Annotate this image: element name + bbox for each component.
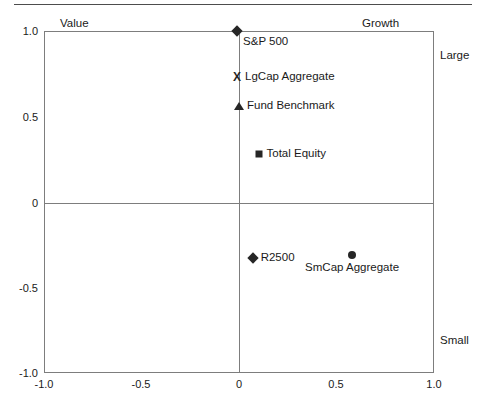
x-tick-label: 0.5 [313, 378, 359, 390]
axis-annotation-small: Small [440, 334, 469, 346]
x-tick-label: -1.0 [21, 378, 67, 390]
axis-annotation-large: Large [440, 49, 469, 61]
marker-cross-icon: X [233, 71, 241, 83]
quadrant-horizontal-line [44, 203, 434, 204]
x-tick-label: 1.0 [411, 378, 457, 390]
data-point-label: Total Equity [267, 148, 326, 160]
style-box-scatter-chart: 1.0 0.5 0 -0.5 -1.0 -1.0 -0.5 0 0.5 1.0 … [0, 0, 482, 399]
y-tick-label: 0.5 [4, 111, 38, 123]
data-point-label: Fund Benchmark [247, 100, 335, 112]
y-tick-label: 1.0 [4, 25, 38, 37]
axis-annotation-growth: Growth [362, 17, 399, 29]
x-tick-label: 0 [216, 378, 262, 390]
marker-circle-icon [348, 251, 356, 259]
marker-square-icon [255, 151, 262, 158]
x-tick-label: -0.5 [118, 378, 164, 390]
y-tick-label: 0 [4, 197, 38, 209]
data-point-label: LgCap Aggregate [245, 71, 335, 83]
data-point-label: S&P 500 [243, 36, 288, 48]
marker-triangle-icon [234, 102, 244, 110]
data-point-label: SmCap Aggregate [305, 262, 399, 274]
y-tick-label: -0.5 [4, 282, 38, 294]
axis-annotation-value: Value [60, 17, 89, 29]
data-point-label: R2500 [261, 253, 295, 265]
